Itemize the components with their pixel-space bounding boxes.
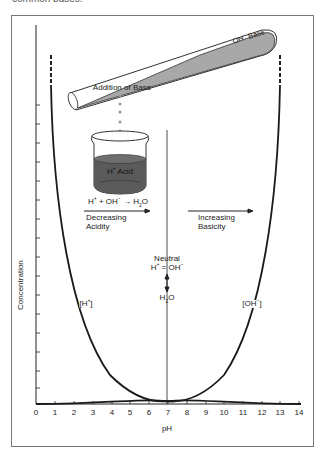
x-tick-label: 0 [34, 408, 38, 417]
basicity-label: Basicity [198, 223, 226, 231]
chart-svg [0, 0, 324, 462]
h-ion-label: [H+] [79, 300, 92, 308]
x-tick-label: 7 [166, 408, 170, 417]
x-tick-label: 9 [204, 408, 208, 417]
acid-text: Acid [117, 167, 133, 176]
x-tick-label: 5 [128, 408, 132, 417]
oh-ion-label: [OH−] [242, 300, 261, 308]
x-tick-label: 4 [110, 408, 114, 417]
reaction-equation: H+ + OH− → H2O [88, 198, 148, 206]
x-tick-label: 1 [53, 408, 57, 417]
x-tick-label: 11 [239, 408, 247, 417]
x-tick-label: 12 [258, 408, 267, 417]
x-tick-label: 8 [185, 408, 189, 417]
h-ion-curve [51, 85, 301, 404]
decreasing-label: Decreasing [86, 214, 126, 222]
x-tick-label: 14 [295, 408, 304, 417]
beaker-illustration [91, 131, 148, 194]
x-tick-label: 3 [91, 408, 95, 417]
x-tick-label: 13 [276, 408, 285, 417]
test-tube-illustration [66, 30, 277, 111]
oh-ion-text: [OH [242, 299, 256, 308]
oh-ion-curve [36, 85, 280, 404]
y-axis-label: Concentration [16, 260, 25, 310]
x-tick-label: 6 [147, 408, 151, 417]
acid-label: H+ Acid [107, 168, 133, 176]
x-tick-label: 10 [220, 408, 229, 417]
neutral-equation: H+ = OH− [151, 264, 184, 272]
addition-of-base-label: Addition of Base [93, 84, 151, 92]
x-tick-label: 2 [72, 408, 76, 417]
x-axis-label: pH [162, 425, 172, 433]
increasing-label: Increasing [198, 214, 235, 222]
h-ion-text: [H [79, 299, 87, 308]
water-label: H2O [160, 294, 175, 302]
acidity-label: Acidity [86, 223, 110, 231]
y-ticks [36, 105, 40, 388]
